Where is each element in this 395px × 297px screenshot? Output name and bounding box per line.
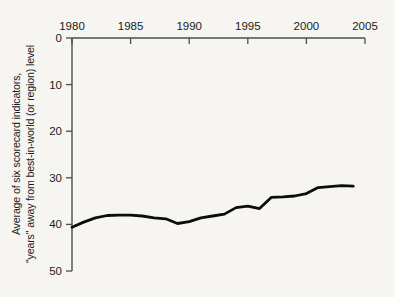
y-tick-label: 10 xyxy=(49,79,62,91)
y-tick-label: 40 xyxy=(49,218,62,230)
scorecard-gap-chart: Average of six scorecard indicators, "ye… xyxy=(0,0,395,297)
x-tick-label: 2005 xyxy=(352,20,378,32)
chart-canvas: 19801985199019952000200501020304050 xyxy=(0,0,395,297)
x-tick-label: 1995 xyxy=(235,20,261,32)
x-tick-label: 1985 xyxy=(118,20,144,32)
y-tick-label: 20 xyxy=(49,125,62,137)
y-tick-label: 0 xyxy=(56,32,62,44)
y-tick-label: 50 xyxy=(49,265,62,277)
x-tick-label: 1980 xyxy=(59,20,85,32)
x-tick-label: 1990 xyxy=(176,20,202,32)
y-tick-label: 30 xyxy=(49,172,62,184)
x-tick-label: 2000 xyxy=(294,20,320,32)
data-line xyxy=(72,186,353,228)
